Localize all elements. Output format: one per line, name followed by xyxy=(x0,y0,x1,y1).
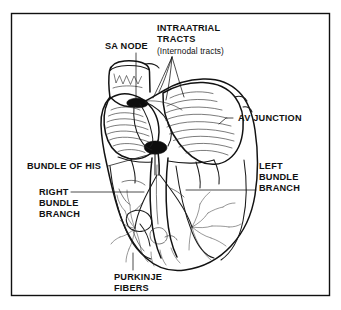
label-sa-node: SA NODE xyxy=(105,41,148,51)
label-purkinje-line1: PURKINJE xyxy=(114,272,162,282)
label-left-bundle-line2: BUNDLE xyxy=(259,172,298,182)
label-purkinje-line2: FIBERS xyxy=(114,283,149,293)
label-right-bundle-line3: BRANCH xyxy=(39,209,80,219)
label-intraatrial-line3: (Internodal tracts) xyxy=(157,46,224,56)
heart-diagram-canvas: SA NODE INTRAATRIAL TRACTS (Internodal t… xyxy=(0,0,341,310)
label-right-bundle-line2: BUNDLE xyxy=(39,198,78,208)
label-right-bundle-line1: RIGHT xyxy=(39,187,69,197)
label-intraatrial-line1: INTRAATRIAL xyxy=(157,23,220,33)
conduction-system-figure: SA NODE INTRAATRIAL TRACTS (Internodal t… xyxy=(0,0,341,310)
label-left-bundle-line3: BRANCH xyxy=(259,183,300,193)
label-intraatrial-line2: TRACTS xyxy=(157,34,195,44)
label-left-bundle-line1: LEFT xyxy=(259,161,283,171)
label-bundle-of-his: BUNDLE OF HIS xyxy=(27,161,101,171)
label-av-junction: AV JUNCTION xyxy=(238,113,302,123)
